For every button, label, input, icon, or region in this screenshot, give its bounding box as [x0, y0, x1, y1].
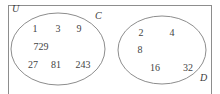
- set-member: 243: [76, 60, 91, 70]
- set-member: 3: [56, 24, 61, 34]
- set-member: 8: [138, 45, 143, 55]
- set-member: 81: [51, 60, 61, 70]
- set-c-label: C: [95, 11, 102, 21]
- set-member: 27: [28, 60, 38, 70]
- set-d-ellipse: [118, 16, 206, 84]
- set-member: 1: [33, 24, 38, 34]
- set-member: 9: [77, 24, 82, 34]
- set-member: 4: [170, 28, 175, 38]
- set-d-label: D: [200, 73, 207, 83]
- set-member: 32: [183, 63, 193, 73]
- set-member: 2: [139, 28, 144, 38]
- set-member: 729: [34, 42, 49, 52]
- venn-diagram: U C D 13972927812432481632: [0, 0, 220, 94]
- set-member: 16: [150, 63, 160, 73]
